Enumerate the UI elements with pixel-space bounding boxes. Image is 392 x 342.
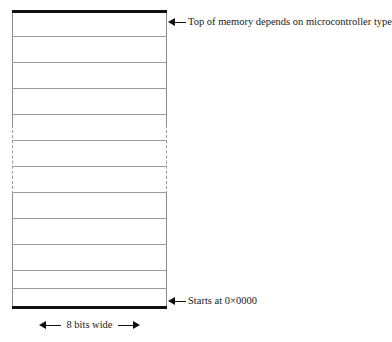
start-address-label: Starts at 0×0000 <box>188 296 257 307</box>
arrow-left-icon <box>39 321 61 330</box>
memory-left-border-ellipsis <box>12 125 13 194</box>
memory-row-separator <box>12 140 167 141</box>
memory-row-separator <box>12 270 167 271</box>
top-of-memory-callout: Top of memory depends on microcontroller… <box>168 17 392 28</box>
memory-row-separator <box>12 88 167 89</box>
top-of-memory-label: Top of memory depends on microcontroller… <box>188 17 392 28</box>
memory-row-separator <box>12 36 167 37</box>
memory-row-separator <box>12 244 167 245</box>
arrow-left-icon <box>168 297 186 306</box>
memory-top-border <box>12 10 167 13</box>
memory-right-border-upper <box>166 13 167 125</box>
memory-row-separator <box>12 62 167 63</box>
memory-row-separator <box>12 288 167 289</box>
memory-right-border-ellipsis <box>166 125 167 194</box>
arrow-left-icon <box>168 18 186 27</box>
arrow-right-icon <box>118 321 140 330</box>
memory-right-border-lower <box>166 194 167 306</box>
start-address-callout: Starts at 0×0000 <box>168 296 257 307</box>
memory-row-separator <box>12 166 167 167</box>
memory-row-separator <box>12 192 167 193</box>
width-caption: 8 bits wide <box>12 320 167 331</box>
memory-row-separator <box>12 218 167 219</box>
width-caption-label: 8 bits wide <box>66 320 112 331</box>
memory-bottom-border <box>12 306 167 309</box>
memory-block <box>12 10 167 309</box>
memory-left-border-upper <box>12 13 13 125</box>
memory-left-border-lower <box>12 194 13 306</box>
memory-row-separator <box>12 114 167 115</box>
